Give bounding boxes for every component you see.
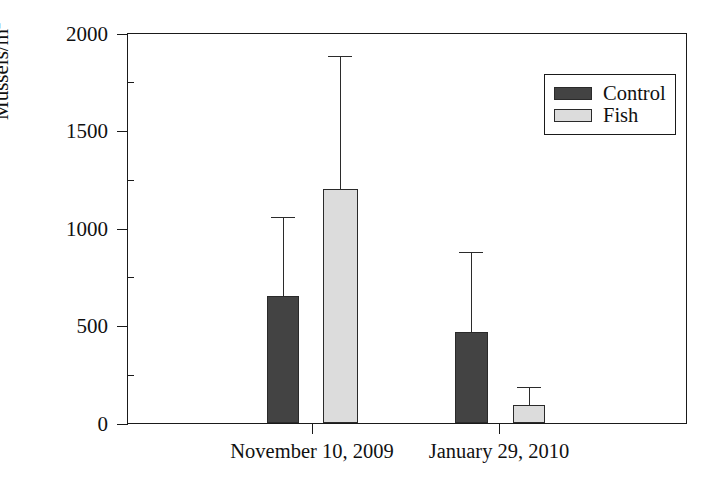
errorbar-control-nov-2009 bbox=[283, 218, 284, 296]
y-tick-1500: 1500 bbox=[117, 131, 128, 132]
legend-label-control: Control bbox=[603, 83, 666, 104]
y-tick-1000: 1000 bbox=[117, 229, 128, 230]
x-tick-group-1 bbox=[312, 423, 313, 434]
errorbar-cap-fish-jan-2010 bbox=[517, 387, 541, 388]
y-tick-500: 500 bbox=[117, 326, 128, 327]
y-tick-label-500: 500 bbox=[77, 316, 118, 337]
fish-swatch-icon bbox=[554, 109, 592, 122]
errorbar-cap-fish-nov-2009 bbox=[328, 56, 352, 57]
bar-fish-nov-2009 bbox=[323, 189, 358, 423]
bar-control-nov-2009 bbox=[267, 296, 299, 423]
y-axis-title: Mussels/m2 bbox=[0, 0, 12, 120]
chart-page: Mussels/m2 0 500 1000 1500 2000 November… bbox=[0, 0, 724, 482]
errorbar-control-jan-2010 bbox=[471, 253, 472, 332]
y-tick-label-2000: 2000 bbox=[66, 24, 117, 45]
plot-area: 0 500 1000 1500 2000 November 10, 2009 J… bbox=[127, 33, 687, 424]
x-tick-group-2 bbox=[499, 423, 500, 434]
chart-legend: Control Fish bbox=[544, 74, 676, 135]
y-minor-tick-250 bbox=[128, 375, 134, 376]
errorbar-fish-jan-2010 bbox=[529, 388, 530, 405]
bar-control-jan-2010 bbox=[455, 332, 488, 423]
control-swatch-icon bbox=[554, 87, 592, 100]
y-tick-0: 0 bbox=[117, 424, 128, 425]
y-axis-title-text: Mussels/m bbox=[0, 29, 13, 120]
bar-fish-jan-2010 bbox=[513, 405, 545, 423]
errorbar-cap-control-nov-2009 bbox=[271, 217, 295, 218]
y-minor-tick-750 bbox=[128, 277, 134, 278]
y-tick-label-0: 0 bbox=[98, 414, 118, 435]
x-label-group-2: January 29, 2010 bbox=[429, 441, 570, 462]
y-tick-label-1000: 1000 bbox=[66, 219, 117, 240]
y-minor-tick-1250 bbox=[128, 180, 134, 181]
y-minor-tick-1750 bbox=[128, 82, 134, 83]
errorbar-fish-nov-2009 bbox=[340, 57, 341, 189]
errorbar-cap-control-jan-2010 bbox=[459, 252, 483, 253]
legend-label-fish: Fish bbox=[603, 105, 638, 126]
y-axis-title-exponent: 2 bbox=[0, 22, 3, 29]
y-tick-label-1500: 1500 bbox=[66, 121, 117, 142]
legend-item-fish: Fish bbox=[554, 104, 666, 126]
legend-item-control: Control bbox=[554, 82, 666, 104]
x-label-group-1: November 10, 2009 bbox=[230, 441, 393, 462]
y-tick-2000: 2000 bbox=[117, 34, 128, 35]
